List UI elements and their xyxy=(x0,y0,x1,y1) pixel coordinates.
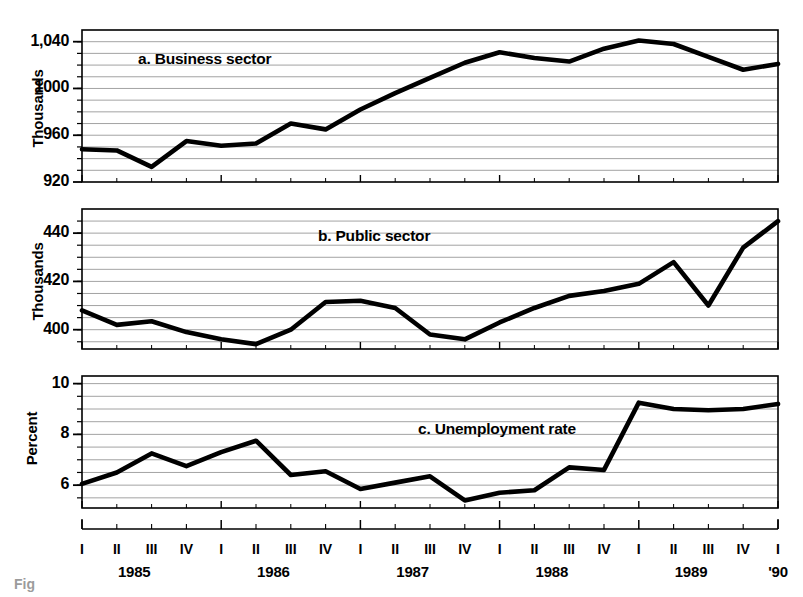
y-tick-label: 1000 xyxy=(0,78,69,96)
panel-title: b. Public sector xyxy=(318,227,430,245)
y-tick-label: 400 xyxy=(0,320,69,338)
panel-a-business-sector: Thousands 92096010001,040a. Business sec… xyxy=(0,22,803,192)
y-tick-label: 440 xyxy=(0,223,69,241)
figure-caption-fragment: Fig xyxy=(14,576,314,596)
figure-three-panel-chart: Thousands 92096010001,040a. Business sec… xyxy=(0,0,803,597)
plot-frame xyxy=(82,376,778,508)
data-series-line xyxy=(82,403,778,501)
y-tick-label: 6 xyxy=(0,475,69,493)
y-tick-label: 1,040 xyxy=(0,32,69,50)
y-tick-label: 960 xyxy=(0,125,69,143)
panel-a-plot xyxy=(0,22,803,192)
x-year-label: '90 xyxy=(746,563,803,580)
x-quarter-label: I xyxy=(758,541,798,557)
panel-a-ylabel: Thousands xyxy=(29,54,46,164)
panel-title: c. Unemployment rate xyxy=(418,420,576,438)
y-tick-label: 920 xyxy=(0,172,69,190)
x-year-label: 1987 xyxy=(381,563,445,580)
y-tick-label: 10 xyxy=(0,374,69,392)
panel-c-plot xyxy=(0,368,803,520)
y-tick-label: 8 xyxy=(0,424,69,442)
y-tick-label: 420 xyxy=(0,271,69,289)
x-year-label: 1988 xyxy=(520,563,584,580)
x-year-label: 1989 xyxy=(659,563,723,580)
panel-title: a. Business sector xyxy=(138,50,271,68)
panel-b-public-sector: Thousands 400420440b. Public sector xyxy=(0,203,803,359)
panel-c-unemployment-rate: Percent 6810c. Unemployment rate xyxy=(0,368,803,520)
